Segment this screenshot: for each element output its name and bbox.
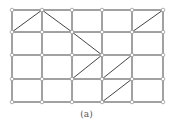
mesh-node [40, 53, 44, 57]
mesh-node [10, 30, 14, 34]
figure-caption: (a) [0, 109, 173, 119]
mesh-node [100, 77, 104, 81]
diagonal-edge [72, 55, 102, 79]
mesh-node [40, 100, 44, 104]
mesh-node [100, 53, 104, 57]
mesh-node [100, 30, 104, 34]
mesh-node [70, 30, 74, 34]
mesh-node [10, 100, 14, 104]
mesh-node [70, 77, 74, 81]
mesh-diagram [0, 0, 173, 127]
mesh-node [10, 8, 14, 12]
mesh-node [130, 100, 134, 104]
diagonal-edge [12, 10, 42, 32]
mesh-node [10, 53, 14, 57]
mesh-node [161, 53, 165, 57]
mesh-node [161, 8, 165, 12]
mesh-node [70, 53, 74, 57]
diagonal-edge [72, 32, 102, 55]
mesh-node [161, 77, 165, 81]
mesh-node [70, 100, 74, 104]
mesh-node [100, 8, 104, 12]
mesh-node [40, 77, 44, 81]
mesh-node [130, 53, 134, 57]
diagonal-edge [132, 10, 163, 32]
mesh-node [161, 100, 165, 104]
diagonal-edge [102, 55, 132, 79]
mesh-node [40, 30, 44, 34]
mesh-node [130, 77, 134, 81]
mesh-node [130, 30, 134, 34]
mesh-node [70, 8, 74, 12]
diagonal-edge [42, 10, 72, 32]
diagonal-edge [102, 79, 132, 102]
mesh-node [10, 77, 14, 81]
mesh-node [100, 100, 104, 104]
mesh-node [161, 30, 165, 34]
mesh-node [40, 8, 44, 12]
mesh-node [130, 8, 134, 12]
